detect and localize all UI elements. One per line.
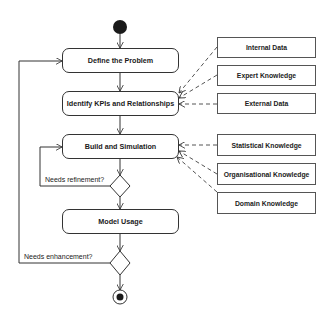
activity-build-simulation: Build and Simulation bbox=[62, 134, 179, 159]
input-label: Statistical Knowledge bbox=[231, 142, 301, 149]
input-label: Domain Knowledge bbox=[235, 200, 298, 207]
activity-label: Model Usage bbox=[98, 217, 142, 226]
input-organisational-knowledge: Organisational Knowledge bbox=[217, 163, 316, 185]
input-label: External Data bbox=[245, 100, 288, 107]
input-organisational-knowledge-link bbox=[179, 151, 217, 174]
activity-identify-kpis: Identify KPIs and Relationships bbox=[62, 91, 179, 116]
initial-node-icon bbox=[113, 20, 127, 34]
activity-label: Define the Problem bbox=[88, 56, 154, 65]
activity-label: Identify KPIs and Relationships bbox=[67, 99, 174, 108]
decision-refinement-icon bbox=[110, 175, 130, 197]
activity-model-usage: Model Usage bbox=[62, 209, 179, 234]
input-statistical-knowledge: Statistical Knowledge bbox=[217, 134, 316, 156]
final-node-dot-icon bbox=[117, 294, 124, 301]
input-label: Expert Knowledge bbox=[237, 72, 296, 79]
activity-label: Build and Simulation bbox=[85, 142, 156, 151]
input-domain-knowledge: Domain Knowledge bbox=[217, 192, 316, 214]
activity-define-problem: Define the Problem bbox=[62, 48, 179, 73]
input-label: Internal Data bbox=[246, 44, 287, 51]
guard-needs-enhancement: Needs enhancement? bbox=[24, 253, 93, 260]
decision-enhancement-icon bbox=[110, 251, 130, 275]
guard-needs-refinement: Needs refinement? bbox=[45, 176, 104, 183]
input-external-data: External Data bbox=[217, 93, 316, 114]
input-expert-knowledge: Expert Knowledge bbox=[217, 65, 316, 86]
input-label: Organisational Knowledge bbox=[224, 171, 310, 178]
input-internal-data: Internal Data bbox=[217, 37, 316, 58]
